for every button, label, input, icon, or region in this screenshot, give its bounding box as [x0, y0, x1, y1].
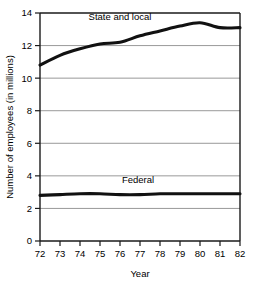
y-tick-label: 0 [27, 235, 32, 246]
y-tick-label: 10 [21, 73, 32, 84]
x-tick-label: 80 [195, 248, 206, 259]
x-tick-label: 77 [135, 248, 146, 259]
x-tick-label: 82 [235, 248, 246, 259]
y-tick-label: 6 [27, 138, 32, 149]
y-axis-title: Number of employees (in millions) [4, 55, 15, 199]
x-tick-label: 79 [175, 248, 186, 259]
x-axis-title: Year [130, 268, 149, 279]
x-tick-label: 78 [155, 248, 166, 259]
chart-background [0, 0, 254, 288]
y-tick-label: 8 [27, 105, 32, 116]
y-tick-label: 12 [21, 40, 32, 51]
x-tick-label: 73 [55, 248, 66, 259]
x-tick-label: 75 [95, 248, 106, 259]
series-line-federal [40, 194, 240, 196]
employment-line-chart: 02468101214 7273747576777879808182 State… [0, 0, 254, 288]
x-tick-label: 81 [215, 248, 226, 259]
series-label: Federal [122, 174, 154, 185]
y-tick-label: 4 [27, 170, 32, 181]
series-label: State and local [89, 11, 152, 22]
x-tick-label: 74 [75, 248, 86, 259]
x-tick-label: 72 [35, 248, 46, 259]
y-tick-label: 2 [27, 203, 32, 214]
y-tick-label: 14 [21, 7, 32, 18]
chart-canvas: 02468101214 7273747576777879808182 State… [0, 0, 254, 288]
x-tick-label: 76 [115, 248, 126, 259]
